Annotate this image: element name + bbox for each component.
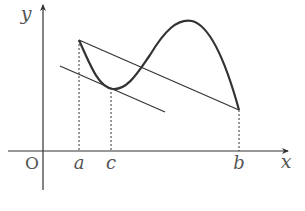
curve (79, 21, 239, 110)
point-c-label: c (106, 152, 116, 173)
x-axis-label: x (281, 150, 292, 172)
point-a-label: a (74, 152, 85, 173)
origin-label: O (25, 153, 39, 173)
secant-line (79, 40, 239, 110)
point-b-label: b (233, 152, 245, 173)
mvt-diagram: y x O a c b (0, 0, 305, 211)
y-axis-label: y (20, 2, 32, 24)
